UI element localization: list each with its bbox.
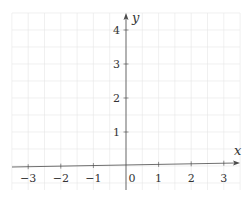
x-tick-label: −3 [20,172,36,185]
x-tick-label: −1 [85,172,101,185]
y-axis-label: y [131,10,140,25]
x-axis [12,163,236,167]
x-axis-label: x [234,143,242,158]
x-tick-label: 0 [129,172,136,185]
y-tick-label: 1 [113,126,120,139]
y-tick-label: 2 [113,92,120,105]
y-tick-label: 3 [113,58,120,71]
axes [12,13,240,190]
x-tick-label: −2 [53,172,69,185]
y-tick-label: 4 [113,24,120,37]
x-tick-label: 1 [155,172,162,185]
x-ticks: −3−2−10123 [20,161,227,185]
coordinate-plane: −3−2−10123 1234 x y [0,0,252,206]
x-tick-label: 3 [220,172,227,185]
x-tick-label: 2 [188,172,195,185]
